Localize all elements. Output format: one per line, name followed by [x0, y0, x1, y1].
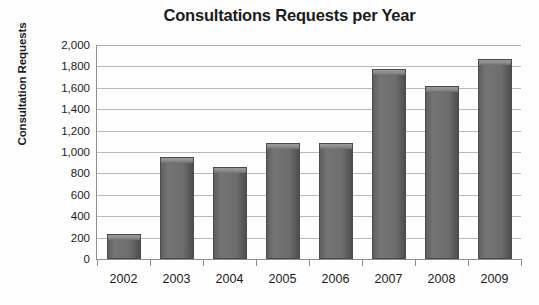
y-axis-tick-label: 600 — [34, 189, 90, 201]
y-axis-tick-label: 200 — [34, 232, 90, 244]
x-axis-tick-mark — [415, 260, 416, 266]
bar-2004 — [213, 167, 247, 259]
bar-top-highlight — [479, 60, 511, 65]
bar-top-highlight — [214, 168, 246, 173]
bar-2006 — [319, 143, 353, 259]
y-axis-tick-label: 0 — [34, 253, 90, 265]
bar-2003 — [160, 157, 194, 259]
x-axis-tick-mark — [309, 260, 310, 266]
y-axis-tick-label: 800 — [34, 167, 90, 179]
y-axis-tick-label: 2,000 — [34, 39, 90, 51]
y-axis-tick-label: 1,400 — [34, 103, 90, 115]
y-axis-title: Consultation Requests — [16, 4, 28, 164]
y-axis-tick-label: 1,600 — [34, 82, 90, 94]
x-axis-tick-mark — [256, 260, 257, 266]
bar-top-highlight — [320, 144, 352, 149]
chart-title: Consultations Requests per Year — [0, 6, 539, 25]
bar-2009 — [478, 59, 512, 259]
x-axis-tick-label-2009: 2009 — [460, 272, 530, 286]
bar-top-highlight — [267, 144, 299, 149]
bar-top-highlight — [161, 158, 193, 163]
bar-top-highlight — [108, 235, 140, 240]
plot-area — [97, 45, 521, 259]
bar-top-highlight — [373, 70, 405, 75]
bar-chart-figure: Consultations Requests per Year Consulta… — [0, 0, 539, 305]
x-axis-tick-mark — [150, 260, 151, 266]
bar-top-highlight — [426, 87, 458, 92]
y-axis-tick-label: 1,000 — [34, 146, 90, 158]
x-axis-tick-mark — [468, 260, 469, 266]
gridline — [97, 66, 521, 67]
y-axis-tick-label: 400 — [34, 210, 90, 222]
y-axis-tick-label: 1,200 — [34, 125, 90, 137]
bar-2005 — [266, 143, 300, 259]
x-axis-tick-mark — [362, 260, 363, 266]
bar-2002 — [107, 234, 141, 259]
x-axis-tick-mark — [203, 260, 204, 266]
x-axis-tick-mark — [521, 260, 522, 266]
bar-2008 — [425, 86, 459, 259]
gridline — [97, 45, 521, 46]
x-axis-tick-mark — [97, 260, 98, 266]
bar-2007 — [372, 69, 406, 259]
y-axis-tick-label: 1,800 — [34, 60, 90, 72]
y-axis-tick-labels: 02004006008001,0001,2001,4001,6001,8002,… — [30, 45, 90, 259]
